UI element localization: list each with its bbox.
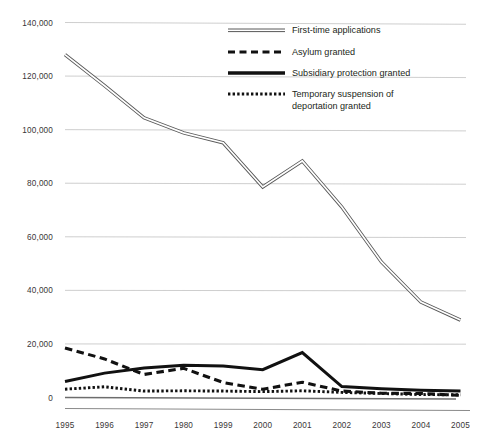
line-chart: 020,00040,00060,00080,000100,000120,0001… xyxy=(0,0,500,445)
y-tick-label: 60,000 xyxy=(27,233,53,242)
legend-item-label: Subsidiary protection granted xyxy=(292,68,410,78)
y-axis-labels: 020,00040,00060,00080,000100,000120,0001… xyxy=(22,19,53,403)
x-tick-label: 1995 xyxy=(56,421,75,430)
x-tick-label: 2001 xyxy=(293,421,312,430)
x-tick-label: 1999 xyxy=(214,421,233,430)
x-tick-label: 2002 xyxy=(332,421,351,430)
gridline xyxy=(65,237,466,238)
legend-item-label: First-time applications xyxy=(292,25,381,35)
gridline xyxy=(65,130,466,131)
legend-item-label-line2: deportation granted xyxy=(292,101,371,111)
y-tick-label: 20,000 xyxy=(27,340,53,349)
y-tick-label: 100,000 xyxy=(22,126,53,135)
series-line xyxy=(65,353,460,392)
chart-plot-area: 020,00040,00060,00080,000100,000120,0001… xyxy=(0,0,500,445)
y-tick-label: 0 xyxy=(48,394,53,403)
x-axis-labels: 1995199619971980199920002001200220032004… xyxy=(56,421,471,430)
x-tick-label: 2005 xyxy=(451,421,470,430)
series-stroke xyxy=(65,353,460,392)
gridlines xyxy=(65,23,466,400)
zero-baseline xyxy=(65,398,456,400)
legend-item-label: Temporary suspension of xyxy=(292,89,394,99)
x-axis-line xyxy=(65,409,470,411)
y-tick-label: 140,000 xyxy=(22,19,53,28)
x-tick-label: 2003 xyxy=(372,421,391,430)
y-tick-label: 40,000 xyxy=(27,286,53,295)
y-tick-label: 120,000 xyxy=(22,72,53,81)
series-line xyxy=(65,55,460,320)
gridline xyxy=(65,23,466,25)
x-tick-label: 1997 xyxy=(135,421,154,430)
legend: First-time applicationsAsylum grantedSub… xyxy=(228,25,410,111)
legend-item-label: Asylum granted xyxy=(292,47,355,57)
x-tick-label: 1980 xyxy=(174,421,193,430)
x-tick-label: 2004 xyxy=(412,421,431,430)
gridline xyxy=(65,290,466,291)
x-tick-label: 2000 xyxy=(253,421,272,430)
x-tick-label: 1996 xyxy=(95,421,114,430)
y-tick-label: 80,000 xyxy=(27,179,53,188)
